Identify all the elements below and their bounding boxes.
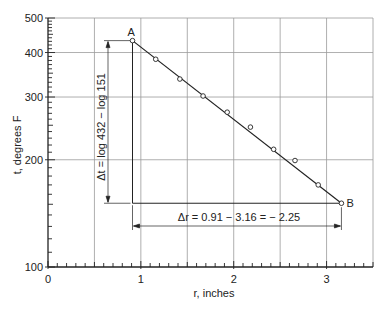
y-tick-label: 100 xyxy=(25,261,43,273)
data-point-marker xyxy=(293,158,298,163)
y-tick-label: 300 xyxy=(25,91,43,103)
delta-t-annotation: Δt = log 432 − log 151 xyxy=(95,73,107,181)
point-a-label: A xyxy=(128,26,136,38)
point-b-label: B xyxy=(346,197,353,209)
axis-tick-labels: 0123100200300400500 xyxy=(25,12,330,285)
chart: 0123100200300400500 r, inches t, degrees… xyxy=(0,0,384,311)
data-point-marker xyxy=(225,110,230,115)
data-point-marker xyxy=(130,38,135,43)
arrow-up-icon xyxy=(106,42,110,48)
arrow-down-icon xyxy=(106,196,110,202)
data-point-marker xyxy=(178,77,183,82)
arrow-left-icon xyxy=(134,224,140,228)
x-tick-label: 2 xyxy=(231,273,237,285)
data-point-marker xyxy=(316,183,321,188)
delta-r-annotation: Δr = 0.91 − 3.16 = − 2.25 xyxy=(178,211,300,223)
x-tick-label: 3 xyxy=(324,273,330,285)
x-axis-label: r, inches xyxy=(194,287,235,299)
dimension-arrows xyxy=(104,41,341,230)
data-point-marker xyxy=(339,201,344,206)
data-point-marker xyxy=(201,94,206,99)
y-tick-label: 400 xyxy=(25,47,43,59)
data-point-marker xyxy=(271,147,276,152)
data-point-marker xyxy=(248,125,253,130)
fit-line xyxy=(133,41,342,204)
y-axis-label: t, degrees F xyxy=(11,115,23,174)
y-tick-label: 200 xyxy=(25,154,43,166)
arrow-right-icon xyxy=(334,224,340,228)
x-tick-label: 1 xyxy=(138,273,144,285)
y-tick-label: 500 xyxy=(25,12,43,24)
data-point-marker xyxy=(153,57,158,62)
fit-line-segment xyxy=(133,41,342,204)
x-tick-label: 0 xyxy=(45,273,51,285)
